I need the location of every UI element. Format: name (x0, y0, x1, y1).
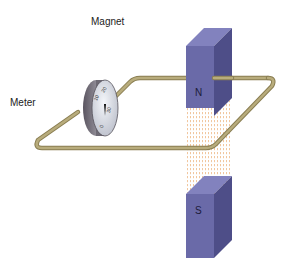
wire-loop-front (37, 78, 274, 148)
south-pole-label: S (195, 205, 202, 216)
meter: 10 20 30 0 (83, 80, 118, 136)
north-pole-magnet: N (186, 28, 232, 116)
south-pole-magnet: S (186, 176, 232, 258)
induction-diagram: N 10 20 30 0 S (0, 0, 289, 274)
north-pole-label: N (195, 87, 202, 98)
